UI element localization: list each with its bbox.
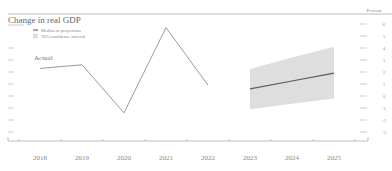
gdp-projection-chart: Change in real GDP Percent Median of pro… (0, 0, 392, 171)
left-axis-ticks (8, 48, 14, 132)
x-tick-label: 2024 (285, 154, 300, 162)
right-tick-label: 1 (383, 82, 386, 87)
x-tick-label: 2022 (201, 154, 216, 162)
actual-annotation: Actual (34, 54, 53, 62)
x-axis-labels: 20182019202020212022202320242025 (33, 154, 342, 162)
right-tick-label: 2 (383, 70, 386, 75)
x-tick-label: 2023 (243, 154, 258, 162)
x-tick-label: 2021 (159, 154, 174, 162)
legend-ci-swatch (34, 34, 38, 38)
legend-ci-label: 70% confidence interval (41, 34, 86, 39)
confidence-band-area (250, 47, 334, 109)
x-tick-label: 2020 (117, 154, 132, 162)
right-tick-label: -1 (382, 106, 387, 111)
chart-canvas: Change in real GDP Percent Median of pro… (0, 0, 392, 171)
right-tick-label: 6 (383, 22, 386, 27)
x-tick-label: 2018 (33, 154, 48, 162)
confidence-band (250, 47, 334, 109)
actual-line (40, 28, 208, 113)
right-tick-label: 3 (383, 58, 386, 63)
unit-label: Percent (367, 8, 383, 13)
right-tick-label: -3 (382, 130, 387, 135)
right-tick-label: 4 (383, 46, 386, 51)
chart-title: Change in real GDP (8, 15, 81, 25)
right-tick-label: 5 (383, 34, 386, 39)
right-tick-label: -2 (382, 118, 387, 123)
x-tick-label: 2019 (75, 154, 90, 162)
right-axis-ticks: 6543210-1-2-3 (360, 22, 387, 135)
legend: Median of projections 70% confidence int… (33, 28, 86, 39)
x-tick-label: 2025 (327, 154, 342, 162)
right-tick-label: 0 (383, 94, 386, 99)
legend-median-label: Median of projections (41, 28, 81, 33)
